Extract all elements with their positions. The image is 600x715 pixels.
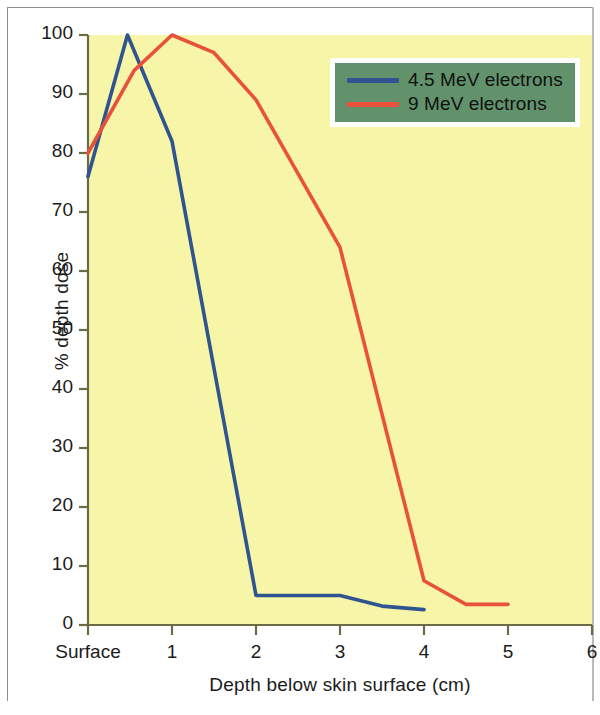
y-tick-label: 10	[13, 553, 73, 575]
legend-inner-panel: 4.5 MeV electrons9 MeV electrons	[335, 63, 575, 122]
x-tick-label: 1	[167, 641, 178, 663]
x-axis-title: Depth below skin surface (cm)	[88, 674, 592, 696]
y-tick-label: 100	[13, 22, 73, 44]
y-axis-title: % depth dose	[51, 211, 73, 411]
x-tick-label: 6	[587, 641, 598, 663]
y-tick-label: 20	[13, 494, 73, 516]
x-tick-label: 2	[251, 641, 262, 663]
y-tick-label: 90	[13, 81, 73, 103]
legend-entry-label: 9 MeV electrons	[408, 93, 547, 115]
legend-entry-label: 4.5 MeV electrons	[408, 69, 563, 91]
x-tick-label: Surface	[55, 641, 120, 663]
y-tick-label: 0	[13, 612, 73, 634]
legend-color-swatch	[347, 78, 399, 83]
y-tick-label: 80	[13, 140, 73, 162]
legend-entry-2: 9 MeV electrons	[347, 93, 563, 115]
x-tick-label: 4	[419, 641, 430, 663]
x-tick-label: 5	[503, 641, 514, 663]
legend-entry-1: 4.5 MeV electrons	[347, 69, 563, 91]
chart-legend: 4.5 MeV electrons9 MeV electrons	[330, 58, 580, 127]
x-tick-label: 3	[335, 641, 346, 663]
y-tick-label: 30	[13, 435, 73, 457]
legend-color-swatch	[347, 102, 399, 107]
chart-figure: 0102030405060708090100 Surface123456 % d…	[0, 0, 600, 715]
